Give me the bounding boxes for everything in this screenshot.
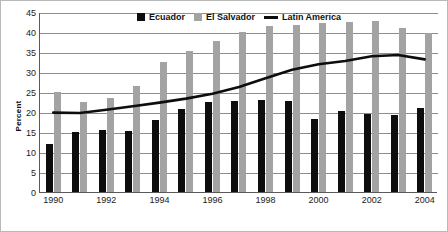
bar-group [385,12,412,192]
x-axis-tick-label: 1998 [256,196,276,205]
y-axis-label: Percent [14,101,23,132]
bar-el-salvador [54,92,61,192]
bar-group: 1996 [199,12,226,192]
legend-item: Latin America [264,12,341,22]
x-axis-tick-label: 2000 [309,196,329,205]
bar-ecuador [205,102,212,192]
bar-ecuador [72,132,79,192]
legend-item: Ecuador [137,12,185,22]
chart-legend: EcuadorEl SalvadorLatin America [40,12,438,22]
bar-el-salvador [239,32,246,192]
bar-el-salvador [107,98,114,192]
bar-ecuador [152,120,159,192]
bar-el-salvador [266,26,273,192]
bar-group: 2004 [411,12,438,192]
x-axis-tick-label: 1996 [202,196,222,205]
y-axis-tick-label: 30 [26,69,36,78]
bar-group: 2000 [305,12,332,192]
legend-label: El Salvador [206,12,255,22]
bar-ecuador [338,111,345,192]
bar-groups: 19901992199419961998200020022004 [40,12,438,192]
bar-ecuador [258,100,265,192]
legend-label: Latin America [282,12,341,22]
bar-ecuador [285,101,292,192]
bar-el-salvador [80,102,87,192]
bar-el-salvador [293,25,300,192]
bar-el-salvador [160,62,167,192]
bar-group [332,12,359,192]
bar-group [173,12,200,192]
y-axis-tick-label: 20 [26,109,36,118]
y-axis-tick-label: 35 [26,49,36,58]
bar-group: 1990 [40,12,67,192]
bar-el-salvador [425,33,432,192]
x-axis-tick-label: 1994 [149,196,169,205]
x-axis-tick-label: 2002 [362,196,382,205]
y-axis-tick-label: 40 [26,29,36,38]
bar-ecuador [125,131,132,192]
x-axis-tick-label: 1990 [43,196,63,205]
bar-ecuador [231,101,238,192]
bar-el-salvador [133,86,140,192]
bar-ecuador [391,115,398,192]
legend-swatch-icon [264,16,278,19]
plot-area: 051015202530354045 199019921994199619982… [39,13,437,193]
bar-group: 1992 [93,12,120,192]
bar-el-salvador [346,22,353,192]
legend-swatch-icon [137,13,145,21]
y-axis-tick-label: 45 [26,9,36,18]
legend-swatch-icon [194,13,202,21]
bar-ecuador [46,144,53,192]
bar-el-salvador [399,28,406,192]
x-axis-tick-label: 2004 [415,196,435,205]
bar-el-salvador [372,21,379,192]
bar-line-chart: Percent 051015202530354045 1990199219941… [0,0,448,232]
bar-ecuador [311,119,318,192]
bar-ecuador [178,109,185,192]
bar-group: 2002 [358,12,385,192]
legend-label: Ecuador [149,12,185,22]
bar-group [67,12,94,192]
x-axis-tick-label: 1992 [96,196,116,205]
y-axis-tick-label: 5 [31,169,36,178]
bar-group [120,12,147,192]
y-axis-tick-label: 0 [31,189,36,198]
legend-item: El Salvador [194,12,255,22]
bar-ecuador [99,130,106,192]
bar-group: 1994 [146,12,173,192]
bar-group [279,12,306,192]
bar-ecuador [417,108,424,192]
bar-el-salvador [186,51,193,192]
bar-ecuador [364,114,371,192]
y-axis-tick-label: 15 [26,129,36,138]
bar-group [226,12,253,192]
y-axis-tick-label: 25 [26,89,36,98]
bar-el-salvador [319,23,326,192]
y-axis-tick-label: 10 [26,149,36,158]
bar-el-salvador [213,41,220,192]
bar-group: 1998 [252,12,279,192]
